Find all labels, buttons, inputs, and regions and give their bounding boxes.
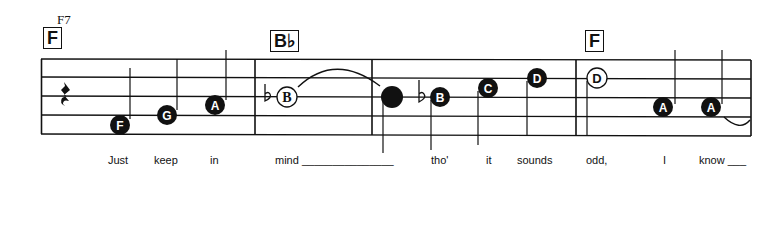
note-f: F (110, 68, 130, 135)
tie-arc (724, 117, 750, 125)
note-g: G (157, 59, 177, 125)
svg-text:A: A (659, 101, 668, 115)
lyric-word: it (486, 154, 492, 166)
flat-icon (419, 80, 425, 102)
svg-text:F: F (116, 119, 123, 133)
lyric-word: Just (108, 154, 128, 166)
lyric-word: in (210, 154, 219, 166)
note-tied-filled (381, 86, 403, 153)
lyric-word: know ___ (699, 154, 746, 166)
svg-text:D: D (533, 72, 542, 86)
quarter-rest-icon (61, 82, 70, 106)
note-b-flat-open: B (265, 84, 297, 107)
note-d: D (527, 68, 547, 135)
lyric-word: tho' (431, 154, 448, 166)
svg-text:C: C (484, 82, 493, 96)
svg-text:B: B (436, 91, 445, 105)
note-d-open: D (587, 68, 607, 135)
note-b-flat: B (419, 80, 450, 150)
lyric-word: keep (154, 154, 178, 166)
svg-text:D: D (592, 71, 601, 86)
lyric-word: I (663, 154, 666, 166)
lyric-word: odd, (586, 154, 607, 166)
flat-icon (265, 84, 270, 101)
svg-text:B: B (282, 90, 291, 105)
svg-text:A: A (707, 101, 716, 115)
lyric-word: sounds (517, 154, 552, 166)
svg-text:A: A (211, 99, 220, 113)
svg-text:G: G (162, 109, 171, 123)
lyric-word: mind _______________ (275, 154, 394, 166)
